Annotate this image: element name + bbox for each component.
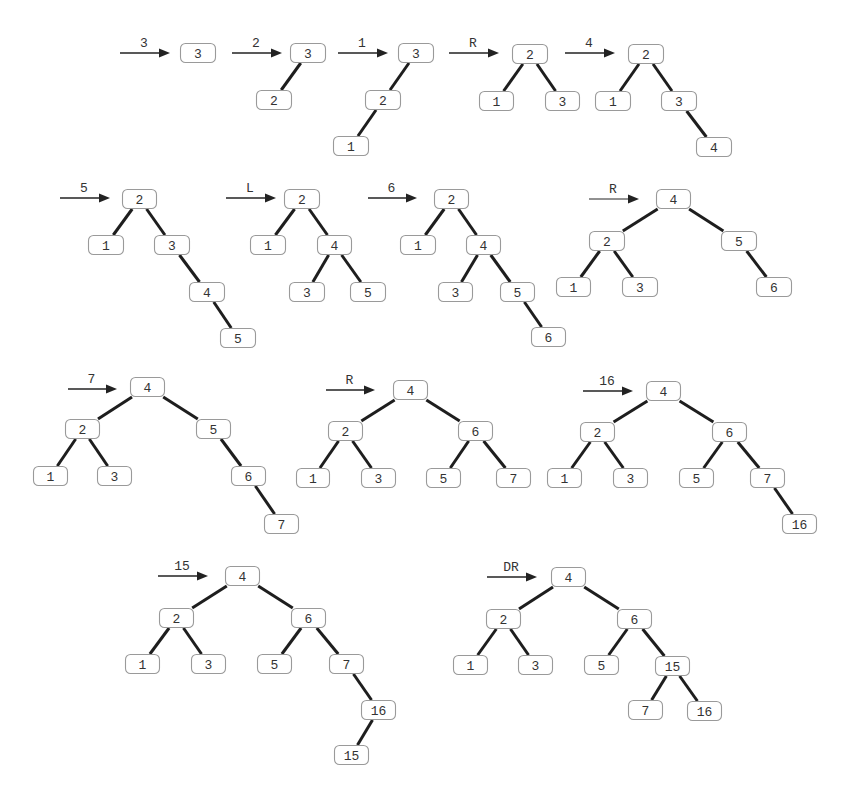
step-label: 16 <box>599 374 615 389</box>
node-value: 6 <box>545 331 553 346</box>
tree-node: 16 <box>783 515 817 534</box>
tree-edge <box>537 64 556 91</box>
tree-node: 2 <box>590 232 625 251</box>
node-value: 4 <box>480 239 488 254</box>
node-value: 3 <box>111 470 119 485</box>
tree-node: 1 <box>596 92 631 111</box>
arrow-head-icon <box>271 49 282 58</box>
step-arrow-rotate-R-1: R <box>449 36 499 58</box>
tree-edge <box>390 63 409 90</box>
node-value: 1 <box>414 239 422 254</box>
tree-edge <box>163 397 198 419</box>
node-value: 2 <box>594 426 602 441</box>
tree-edge <box>504 64 523 91</box>
node-value: 6 <box>472 425 480 440</box>
tree-edge <box>478 629 497 655</box>
node-value: 3 <box>194 47 202 62</box>
tree-edge <box>179 255 199 282</box>
tree-edge <box>689 209 723 231</box>
tree-edge <box>510 629 528 655</box>
node-value: 5 <box>271 658 279 673</box>
node-value: 2 <box>173 612 181 627</box>
tree-edge <box>680 401 714 422</box>
tree-edge <box>584 587 619 609</box>
tree-node: 2 <box>366 91 401 110</box>
tree-node: 3 <box>519 656 553 675</box>
tree-edge <box>192 586 227 608</box>
tree-insert-7: 4251367 <box>34 378 299 534</box>
node-value: 6 <box>305 612 313 627</box>
tree-node: 1 <box>334 137 369 156</box>
step-label: 15 <box>174 559 190 574</box>
tree-edge <box>89 439 107 466</box>
tree-edge <box>605 442 624 468</box>
node-value: 6 <box>245 470 253 485</box>
tree-node: 7 <box>629 701 663 720</box>
tree-node: 5 <box>221 329 256 348</box>
tree-node: 6 <box>292 609 326 628</box>
tree-node: 2 <box>160 609 194 628</box>
nodes-layer: 3323212132134213452143521435642513642513… <box>34 44 817 765</box>
tree-edge <box>320 441 339 468</box>
tree-node: 4 <box>647 382 681 401</box>
node-value: 2 <box>136 193 144 208</box>
tree-node: 3 <box>181 44 216 63</box>
tree-edge <box>461 255 477 282</box>
node-value: 4 <box>670 193 678 208</box>
tree-edge <box>609 629 628 655</box>
step-label: 1 <box>358 36 366 51</box>
step-arrow-insert-1: 1 <box>338 36 388 58</box>
tree-edges-rotate-R-1 <box>504 64 556 91</box>
tree-node: 3 <box>439 283 473 302</box>
node-value: 2 <box>642 48 650 63</box>
tree-node: 4 <box>318 236 352 255</box>
tree-edge <box>484 441 506 468</box>
arrow-head-icon <box>628 195 639 204</box>
step-arrow-rotate-DR: DR <box>487 560 537 582</box>
node-value: 6 <box>770 281 778 296</box>
node-value: 2 <box>526 48 534 63</box>
tree-node: 5 <box>197 420 231 439</box>
tree-edge <box>183 628 201 654</box>
node-value: 7 <box>510 472 518 487</box>
node-value: 7 <box>278 518 286 533</box>
tree-node: 4 <box>552 568 586 587</box>
tree-edge <box>774 488 792 514</box>
tree-edge <box>282 628 301 654</box>
tree-edges-insert-6 <box>425 209 541 327</box>
tree-edge <box>221 439 241 466</box>
tree-insert-16: 426135716 <box>548 382 817 534</box>
arrow-head-icon <box>622 387 633 396</box>
tree-node: 2 <box>513 45 548 64</box>
step-label: 5 <box>80 181 88 196</box>
tree-node: 7 <box>497 469 531 488</box>
tree-edge <box>687 111 707 137</box>
arrow-head-icon <box>106 385 117 394</box>
node-value: 3 <box>168 239 176 254</box>
tree-node: 3 <box>98 467 132 486</box>
tree-node: 3 <box>291 44 326 63</box>
node-value: 3 <box>452 286 460 301</box>
tree-node: 6 <box>713 423 747 442</box>
node-value: 4 <box>144 381 152 396</box>
tree-node: 6 <box>232 467 266 486</box>
tree-insert-4: 2134 <box>596 45 732 157</box>
tree-node: 4 <box>394 381 428 400</box>
node-value: 2 <box>500 613 508 628</box>
edges-layer <box>57 63 792 745</box>
tree-edge <box>572 442 591 468</box>
tree-edge <box>255 486 274 514</box>
step-label: 2 <box>252 36 260 51</box>
node-value: 2 <box>448 193 456 208</box>
tree-node: 2 <box>123 190 157 209</box>
tree-node: 3 <box>399 44 434 63</box>
tree-edge <box>317 628 338 654</box>
tree-edge <box>353 674 371 700</box>
tree-node: 15 <box>656 657 690 676</box>
node-value: 3 <box>627 472 635 487</box>
tree-node: 5 <box>722 232 757 251</box>
tree-edge <box>747 251 767 277</box>
tree-edge <box>623 209 658 231</box>
step-label: R <box>346 373 354 388</box>
tree-node: 2 <box>629 45 664 64</box>
